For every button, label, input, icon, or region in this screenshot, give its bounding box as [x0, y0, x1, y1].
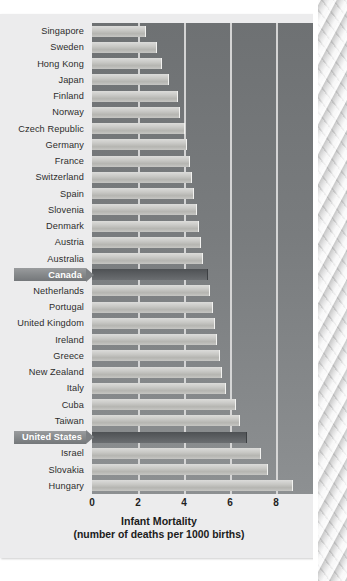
bar-austria — [92, 237, 201, 248]
category-label-denmark: Denmark — [0, 221, 84, 232]
category-label-japan: Japan — [0, 75, 84, 86]
category-label-united-kingdom: United Kingdom — [0, 318, 84, 329]
bar-czech-republic — [92, 123, 185, 134]
bar-netherlands — [92, 285, 210, 296]
category-label-slovakia: Slovakia — [0, 465, 84, 476]
category-label-canada: Canada — [0, 270, 82, 281]
bar-finland — [92, 91, 178, 102]
category-label-portugal: Portugal — [0, 302, 84, 313]
category-label-singapore: Singapore — [0, 26, 84, 37]
category-axis-labels: SingaporeSwedenHong KongJapanFinlandNorw… — [0, 14, 92, 558]
x-tick-4: 4 — [181, 496, 187, 509]
category-label-united-states: United States — [0, 432, 82, 443]
x-tick-6: 6 — [227, 496, 233, 509]
bar-hong-kong — [92, 58, 162, 69]
bar-italy — [92, 383, 226, 394]
bar-ireland — [92, 334, 217, 345]
bar-slovenia — [92, 204, 197, 215]
category-label-czech-republic: Czech Republic — [0, 124, 84, 135]
bar-israel — [92, 448, 261, 459]
category-label-taiwan: Taiwan — [0, 416, 84, 427]
category-label-germany: Germany — [0, 140, 84, 151]
category-label-finland: Finland — [0, 91, 84, 102]
bar-taiwan — [92, 415, 240, 426]
category-label-israel: Israel — [0, 448, 84, 459]
x-axis-title: Infant Mortality — [0, 514, 318, 528]
bar-canada — [92, 269, 208, 280]
category-label-norway: Norway — [0, 107, 84, 118]
bar-australia — [92, 253, 203, 264]
bar-france — [92, 156, 190, 167]
category-label-hungary: Hungary — [0, 481, 84, 492]
bar-germany — [92, 139, 187, 150]
bar-greece — [92, 350, 220, 361]
category-label-greece: Greece — [0, 351, 84, 362]
category-label-spain: Spain — [0, 189, 84, 200]
bar-united-kingdom — [92, 318, 215, 329]
bar-hungary — [92, 480, 293, 491]
bar-slovakia — [92, 464, 268, 475]
x-tick-0: 0 — [89, 496, 95, 509]
bar-cuba — [92, 399, 236, 410]
category-label-cuba: Cuba — [0, 400, 84, 411]
bar-united-states — [92, 432, 247, 443]
category-label-hong-kong: Hong Kong — [0, 59, 84, 70]
category-label-switzerland: Switzerland — [0, 172, 84, 183]
x-tick-2: 2 — [135, 496, 141, 509]
bar-singapore — [92, 26, 146, 37]
category-label-australia: Australia — [0, 254, 84, 265]
bar-spain — [92, 188, 194, 199]
gridline-8 — [276, 23, 278, 494]
category-label-france: France — [0, 156, 84, 167]
bar-norway — [92, 107, 180, 118]
category-label-ireland: Ireland — [0, 335, 84, 346]
x-axis-subtitle: (number of deaths per 1000 births) — [0, 528, 318, 542]
bar-new-zealand — [92, 367, 222, 378]
book-page-sheet: SingaporeSwedenHong KongJapanFinlandNorw… — [0, 14, 318, 558]
category-label-austria: Austria — [0, 237, 84, 248]
bar-portugal — [92, 302, 213, 313]
category-label-new-zealand: New Zealand — [0, 367, 84, 378]
bar-sweden — [92, 42, 157, 53]
plot-area — [92, 23, 322, 494]
marbled-page-edge — [318, 0, 347, 581]
x-tick-8: 8 — [273, 496, 279, 509]
bar-japan — [92, 74, 169, 85]
bar-switzerland — [92, 172, 192, 183]
category-label-netherlands: Netherlands — [0, 286, 84, 297]
infant-mortality-bar-chart: SingaporeSwedenHong KongJapanFinlandNorw… — [0, 14, 318, 558]
category-label-sweden: Sweden — [0, 42, 84, 53]
category-label-slovenia: Slovenia — [0, 205, 84, 216]
category-label-italy: Italy — [0, 383, 84, 394]
bar-denmark — [92, 221, 199, 232]
x-axis-tick-labels: 0246810 — [0, 496, 340, 512]
